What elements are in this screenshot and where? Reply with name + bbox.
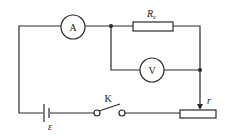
circuit-diagram: A Rx V ε K r (0, 0, 232, 137)
slider-arrow-icon (197, 104, 203, 110)
junction-dot-right (198, 68, 202, 72)
junction-dot-left (109, 24, 113, 28)
wire-voltmeter-left (111, 26, 140, 70)
ammeter-label: A (69, 22, 77, 33)
wire-rx-right (173, 26, 200, 106)
resistor-rx: Rx (133, 8, 173, 31)
switch-label: K (104, 93, 112, 104)
ammeter: A (61, 15, 85, 39)
rheostat: r (180, 95, 216, 118)
resistor-label: Rx (146, 8, 156, 20)
battery-label: ε (48, 121, 52, 132)
voltmeter: V (140, 58, 164, 82)
rheostat-label: r (207, 95, 211, 106)
switch-k: K (94, 93, 125, 116)
battery: ε (44, 104, 52, 132)
voltmeter-label: V (148, 65, 156, 76)
wire-left-top (19, 26, 61, 113)
